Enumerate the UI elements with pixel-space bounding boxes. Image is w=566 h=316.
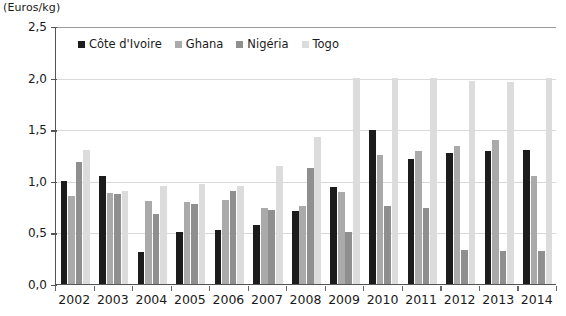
x-axis-tick-mark: [248, 286, 249, 291]
bar: [314, 137, 321, 284]
x-axis-tick-mark: [286, 286, 287, 291]
bar: [538, 251, 545, 284]
bar: [292, 211, 299, 284]
bar: [384, 206, 391, 284]
bar: [199, 184, 206, 284]
x-axis-tick-label: 2012: [444, 293, 476, 307]
bar: [330, 187, 337, 284]
x-axis-tick-mark: [517, 286, 518, 291]
bar: [492, 140, 499, 284]
legend-label: Togo: [313, 38, 339, 51]
bar: [145, 201, 152, 284]
bar: [507, 82, 514, 284]
bar: [392, 78, 399, 284]
year-bar-group: [133, 27, 172, 284]
chart-legend: Côte d'IvoireGhanaNigériaTogo: [78, 38, 339, 51]
x-axis-tick-mark: [479, 286, 480, 291]
year-bar-group: [210, 27, 249, 284]
bar: [408, 159, 415, 284]
legend-label: Côte d'Ivoire: [89, 38, 162, 51]
bar: [99, 176, 106, 284]
bar: [237, 186, 244, 284]
year-bar-group: [518, 27, 557, 284]
bar: [430, 78, 437, 284]
bar: [353, 78, 360, 284]
y-axis-tick-mark: [51, 27, 57, 28]
bar: [345, 232, 352, 284]
x-axis-tick-mark: [363, 286, 364, 291]
bar: [153, 214, 160, 284]
legend-label: Nigéria: [247, 38, 288, 51]
x-axis-tick-label: 2009: [328, 293, 360, 307]
bars-layer: [56, 27, 556, 284]
bar: [68, 196, 75, 284]
year-bar-group: [172, 27, 211, 284]
bar: [160, 186, 167, 284]
bar: [377, 155, 384, 284]
year-bar-group: [95, 27, 134, 284]
plot-area: [55, 27, 556, 285]
legend-item: Ghana: [175, 38, 224, 51]
bar: [61, 181, 68, 284]
bar: [191, 204, 198, 284]
x-axis-tick-mark: [171, 286, 172, 291]
x-axis-tick-mark: [440, 286, 441, 291]
bar: [253, 225, 260, 284]
y-axis-tick-mark: [51, 130, 57, 131]
x-axis: 2002200320042005200620072008200920102011…: [55, 286, 556, 316]
bar: [446, 153, 453, 284]
legend-label: Ghana: [186, 38, 224, 51]
x-axis-tick-mark: [556, 286, 557, 291]
bar: [546, 78, 553, 284]
bar: [454, 146, 461, 284]
bar: [299, 206, 306, 284]
x-axis-tick-label: 2010: [367, 293, 399, 307]
x-axis-tick-mark: [55, 286, 56, 291]
year-bar-group: [287, 27, 326, 284]
legend-item: Nigéria: [236, 38, 288, 51]
x-axis-tick-label: 2002: [58, 293, 90, 307]
bar: [230, 191, 237, 284]
year-bar-group: [364, 27, 403, 284]
legend-item: Côte d'Ivoire: [78, 38, 162, 51]
x-axis-tick-mark: [325, 286, 326, 291]
legend-swatch-icon: [78, 41, 85, 48]
x-axis-tick-mark: [132, 286, 133, 291]
bar: [114, 194, 121, 284]
bar: [138, 252, 145, 284]
x-axis-tick-label: 2003: [97, 293, 129, 307]
x-axis-tick-mark: [209, 286, 210, 291]
year-bar-group: [480, 27, 519, 284]
bar: [122, 191, 129, 284]
bar: [415, 151, 422, 284]
bar: [500, 251, 507, 284]
y-axis-tick-label: 0,0: [5, 279, 47, 291]
y-axis-tick-label: 2,0: [5, 73, 47, 85]
bar: [184, 202, 191, 284]
x-axis-tick-label: 2008: [290, 293, 322, 307]
bar: [83, 150, 90, 284]
bar: [369, 130, 376, 284]
y-axis-tick-label: 1,5: [5, 124, 47, 136]
x-axis-tick-label: 2013: [482, 293, 514, 307]
year-bar-group: [249, 27, 288, 284]
x-axis-tick-label: 2014: [521, 293, 553, 307]
year-bar-group: [441, 27, 480, 284]
x-axis-tick-label: 2006: [213, 293, 245, 307]
y-axis-tick-mark: [51, 182, 57, 183]
y-axis-unit-label: (Euros/kg): [3, 1, 60, 14]
bar: [261, 208, 268, 284]
x-axis-tick-label: 2004: [135, 293, 167, 307]
y-axis-tick-mark: [51, 233, 57, 234]
bar: [276, 166, 283, 284]
bar: [76, 162, 83, 284]
y-axis-tick-mark: [51, 79, 57, 80]
x-axis-tick-label: 2011: [405, 293, 437, 307]
year-bar-group: [403, 27, 442, 284]
y-axis-tick-label: 0,5: [5, 227, 47, 239]
year-bar-group: [56, 27, 95, 284]
bar: [338, 192, 345, 284]
bar: [423, 208, 430, 284]
bar: [222, 200, 229, 284]
bar: [531, 176, 538, 284]
